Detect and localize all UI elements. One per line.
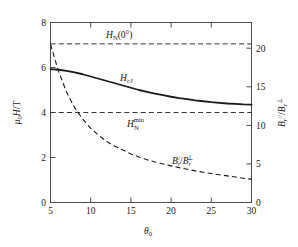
- hnmin-sup: min: [134, 116, 145, 123]
- x-tick-label-3: 20: [166, 206, 176, 216]
- annotation-br-ratio: Br///Br⊥: [172, 154, 193, 168]
- series-hcj-curve: [51, 69, 252, 105]
- y-left-axis-title: μ0H/T: [12, 101, 23, 126]
- x-axis-title-sub: 0: [149, 230, 153, 237]
- svg-text:θ0: θ0: [144, 226, 153, 237]
- x-tick-label-0: 5: [48, 206, 53, 216]
- y2-tick-label-3: 15: [256, 82, 266, 92]
- y-right-tick-labels: 0 5 10 15 20: [256, 44, 266, 208]
- y2-tick-label-0: 0: [256, 198, 261, 208]
- series-br-ratio-curve: [51, 44, 252, 179]
- y-left-tick-labels: 0 2 4 6 8: [41, 18, 46, 208]
- svg-text:Br///Br⊥: Br///Br⊥: [276, 98, 288, 127]
- br-perp: ⊥: [187, 154, 193, 161]
- y2-tick-label-2: 10: [256, 121, 266, 131]
- y-tick-label-2: 4: [41, 108, 46, 118]
- svg-text:Br///Br⊥: Br///Br⊥: [172, 154, 193, 168]
- hnmin-n: N: [134, 124, 139, 131]
- x-tick-label-4: 25: [207, 206, 217, 216]
- figure-container: 5 10 15 20 25 30 0 2 4 6 8 0 5 10 15 20 …: [0, 0, 298, 247]
- y2-tick-label-1: 5: [256, 159, 261, 169]
- y-tick-label-4: 8: [41, 18, 46, 28]
- y2-tick-label-4: 20: [256, 44, 266, 54]
- x-tick-label-1: 10: [86, 206, 96, 216]
- y-left-title-slasht: /T: [12, 101, 22, 110]
- annotation-hn-min: HNmin: [126, 116, 145, 131]
- x-axis-title: θ0: [144, 226, 153, 237]
- chart-canvas: 5 10 15 20 25 30 0 2 4 6 8 0 5 10 15 20 …: [0, 0, 298, 247]
- x-tick-labels: 5 10 15 20 25 30: [48, 206, 256, 216]
- br-r2: r: [189, 160, 192, 167]
- hn-zero-tail: (0°): [118, 30, 133, 41]
- svg-text:HNmin: HNmin: [126, 116, 145, 131]
- annotation-hcj: HcJ: [119, 73, 134, 84]
- y-tick-label-0: 0: [41, 198, 46, 208]
- svg-text:HN(0°): HN(0°): [105, 30, 133, 41]
- y-right-title-perp: ⊥: [276, 98, 283, 104]
- annotation-hn-zero: HN(0°): [105, 30, 133, 41]
- hcj-sub: cJ: [127, 77, 134, 84]
- y-tick-label-3: 6: [41, 63, 46, 73]
- y-tick-label-1: 2: [41, 153, 46, 163]
- svg-text:μ0H/T: μ0H/T: [12, 101, 23, 126]
- y-right-axis-title: Br///Br⊥: [276, 98, 288, 127]
- x-tick-label-2: 15: [126, 206, 136, 216]
- svg-text:HcJ: HcJ: [119, 73, 134, 84]
